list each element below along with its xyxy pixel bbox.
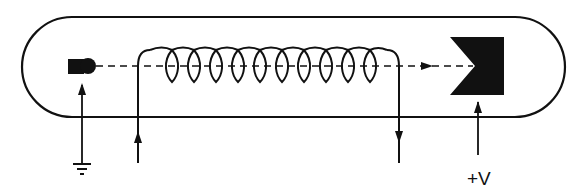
cathode (68, 58, 96, 74)
arrow-up-icon (78, 83, 86, 95)
anode-voltage-label: +V (467, 168, 491, 189)
ground-icon (73, 164, 91, 174)
beam-arrow-icon (421, 62, 433, 70)
anode-lead (474, 101, 482, 155)
input-arrow-up-icon (134, 131, 142, 143)
electron-beam (96, 62, 473, 70)
cathode-ground-lead (73, 83, 91, 174)
arrow-up-icon (474, 101, 482, 113)
tube-diagram: +V (0, 0, 585, 195)
helix-coil (138, 48, 399, 164)
output-arrow-down-icon (395, 131, 403, 143)
